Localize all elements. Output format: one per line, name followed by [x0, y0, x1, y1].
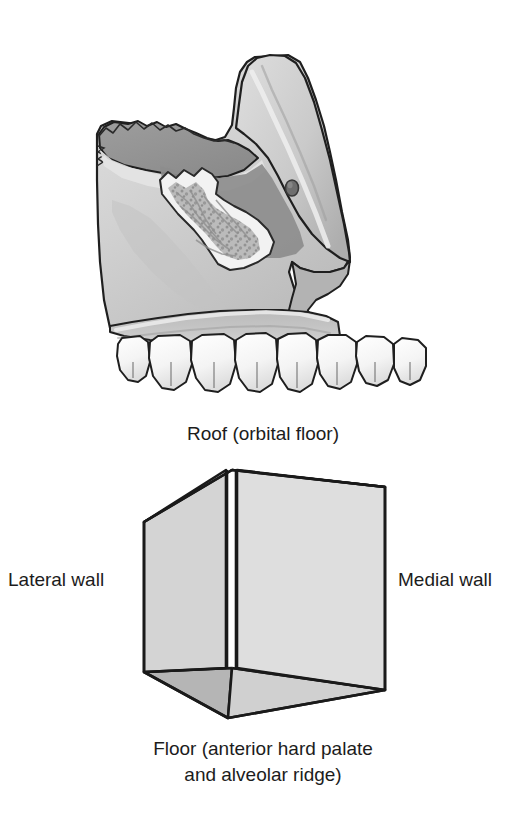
caption-floor: Floor (anterior hard palate and alveolar… [0, 736, 526, 788]
anatomy-figure [0, 0, 526, 823]
foramen-highlight [287, 182, 292, 188]
box-left-face-lateral-wall [144, 470, 226, 672]
caption-floor-line-2: and alveolar ridge) [0, 762, 526, 788]
box-bottom-face-left [144, 668, 232, 718]
caption-roof: Roof (orbital floor) [0, 421, 526, 447]
caption-floor-line-1: Floor (anterior hard palate [0, 736, 526, 762]
box-right-face-medial-wall [237, 470, 385, 690]
tooth-row [117, 333, 426, 392]
maxilla-sagittal-section [97, 55, 426, 392]
infraorbital-foramen [286, 180, 299, 196]
label-medial-wall: Medial wall [398, 567, 526, 593]
maxillary-sinus-pyramid-schematic [144, 470, 385, 718]
label-lateral-wall: Lateral wall [8, 567, 148, 593]
box-front-edge-gap [227, 470, 236, 669]
